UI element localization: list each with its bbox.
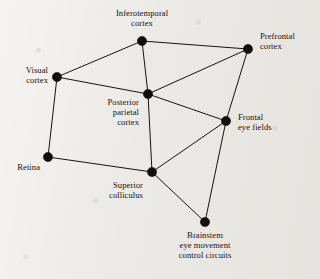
node-link-graph: [0, 0, 320, 279]
graph-edge-visual_cortex-to-inferotemporal_cortex: [57, 41, 142, 77]
graph-edge-superior_colliculus-to-brainstem_eye_movement_control_circuits: [152, 172, 205, 222]
graph-edge-retina-to-superior_colliculus: [48, 157, 152, 172]
graph-edge-posterior_parietal_cortex-to-frontal_eye_fields: [148, 94, 226, 121]
diagram-page: InferotemporalcortexPrefrontalcortexVisu…: [0, 0, 320, 279]
graph-node-inferotemporal_cortex[interactable]: [137, 36, 146, 45]
graph-node-prefrontal_cortex[interactable]: [243, 44, 252, 53]
graph-node-superior_colliculus[interactable]: [147, 167, 156, 176]
graph-node-brainstem_eye_movement_control_circuits[interactable]: [200, 217, 209, 226]
graph-edge-inferotemporal_cortex-to-posterior_parietal_cortex: [142, 41, 148, 94]
graph-edge-prefrontal_cortex-to-frontal_eye_fields: [226, 49, 248, 121]
graph-node-frontal_eye_fields[interactable]: [221, 116, 230, 125]
graph-edge-superior_colliculus-to-frontal_eye_fields: [152, 121, 226, 172]
graph-node-posterior_parietal_cortex[interactable]: [143, 89, 152, 98]
graph-edge-posterior_parietal_cortex-to-prefrontal_cortex: [148, 49, 248, 94]
graph-node-retina[interactable]: [43, 152, 52, 161]
graph-edge-frontal_eye_fields-to-brainstem_eye_movement_control_circuits: [205, 121, 226, 222]
graph-edge-posterior_parietal_cortex-to-superior_colliculus: [148, 94, 152, 172]
graph-node-visual_cortex[interactable]: [52, 72, 61, 81]
graph-edge-inferotemporal_cortex-to-prefrontal_cortex: [142, 41, 248, 49]
graph-edge-visual_cortex-to-retina: [48, 77, 57, 157]
edge-layer: [48, 41, 248, 222]
graph-edge-visual_cortex-to-posterior_parietal_cortex: [57, 77, 148, 94]
node-layer: [43, 36, 252, 226]
